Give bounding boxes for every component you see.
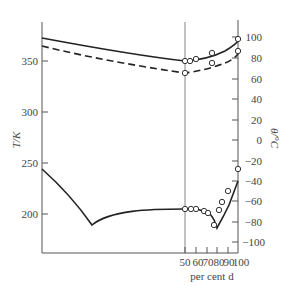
svg-text:50: 50: [180, 256, 192, 268]
svg-text:−40: −40: [245, 175, 263, 187]
svg-text:−20: −20: [245, 155, 263, 167]
y-right-title: θ/°C: [269, 128, 281, 149]
svg-text:80: 80: [251, 52, 263, 64]
svg-text:−80: −80: [245, 216, 263, 228]
left-tick-label: 250: [22, 157, 39, 169]
svg-text:40: 40: [251, 93, 263, 105]
dashed-curve: [42, 46, 238, 73]
svg-text:60: 60: [251, 73, 263, 85]
x-tick-labels: 50 60 70 80 90 100: [180, 256, 250, 268]
left-tick-label: 300: [22, 106, 39, 118]
svg-text:−100: −100: [242, 236, 265, 248]
left-ticks: [42, 61, 48, 214]
x-title: per cent d: [190, 270, 234, 282]
right-ticks: [232, 37, 238, 242]
upper-solid-curve: [42, 38, 238, 61]
right-tick-labels: 100 80 60 40 20 0 −20 −40 −60 −80 −100: [242, 31, 265, 248]
svg-text:0: 0: [257, 134, 263, 146]
svg-text:100: 100: [246, 31, 263, 43]
x-ticks: [185, 247, 228, 253]
left-tick-label: 200: [22, 208, 39, 220]
left-tick-label: 350: [22, 55, 39, 67]
chart: 350 300 250 200 T/K 100 80 60 40 20 0 −2…: [0, 0, 288, 287]
lower-solid-curve: [42, 169, 238, 228]
svg-text:100: 100: [233, 256, 250, 268]
y-left-title: T/K: [10, 131, 22, 148]
svg-text:70: 70: [203, 256, 215, 268]
svg-text:−60: −60: [245, 195, 263, 207]
svg-text:20: 20: [251, 114, 263, 126]
